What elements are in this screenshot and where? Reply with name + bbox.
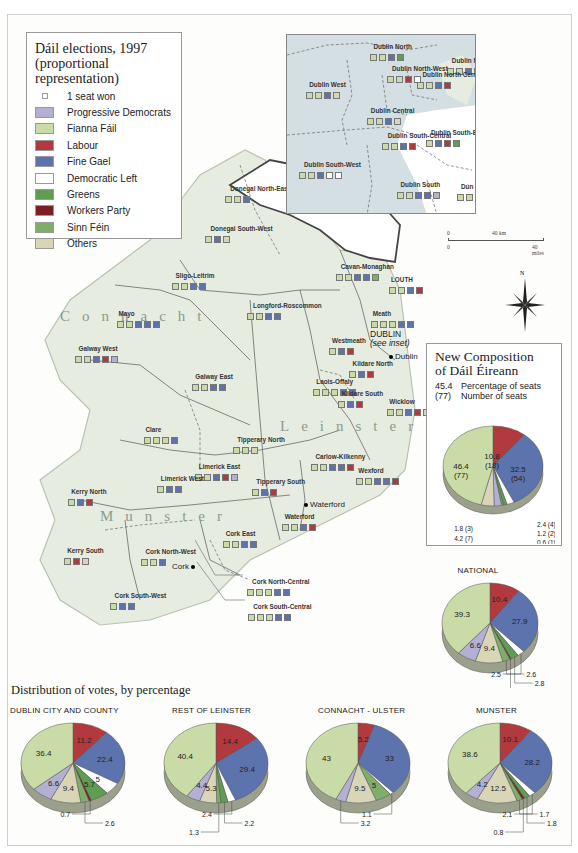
seat-row [306,92,340,99]
pie-value-label: 2.2 [244,820,254,827]
legend-item: Others [35,236,173,252]
constituency-label: Wexford [358,467,383,475]
seat-square-icon [77,499,84,506]
seat-square-icon [86,499,93,506]
seat-square-icon [389,287,396,294]
seat-row [225,196,250,203]
constituency-label: Kildare North [353,360,393,368]
pie-value-label: 0.8 [494,829,504,836]
seat-row [370,54,404,61]
seat-square-icon [396,76,403,83]
pie-value-label: 27.9 [512,617,528,626]
seat-square-icon [374,478,381,485]
seat-square-icon [433,192,440,199]
seat-square-icon [363,274,370,281]
seat-square-icon [335,172,342,179]
seat-square-icon [391,143,398,150]
legend-swatch-icon [35,238,54,249]
seat-row [387,76,421,83]
seat-square-icon [347,401,354,408]
national-pie-title: NATIONAL [448,566,508,575]
seat-square-icon [354,274,361,281]
seat-square-icon [345,274,352,281]
seat-square-icon [426,82,433,89]
constituency-label: LOUTH [391,276,413,284]
seat-square-icon [159,559,166,566]
seat-square-icon [225,196,232,203]
pie-value-label: 32.5 [510,465,526,474]
seat-square-icon [416,287,423,294]
constituency-label: Dublin North Central [423,71,476,79]
pie-value-label: 12.5 [490,784,506,793]
seat-square-icon [204,474,211,481]
seat-square-icon [347,348,354,355]
legend-swatch-icon [35,189,54,200]
seat-row [387,409,430,416]
seat-square-icon [405,409,412,416]
constituency-label: Dún Laoghaire [461,183,476,191]
seat-square-icon [172,283,179,290]
constituency-label: Sligo-Leitrim [175,272,214,280]
seat-square-icon [222,474,229,481]
pie-value-label: 2.5 [491,671,501,678]
province-label-munster: Munster [100,508,234,525]
pie-value-label: 2.1 [503,811,513,818]
seat-row [329,348,354,355]
seat-square-icon [315,92,322,99]
seat-square-icon [466,194,473,201]
seat-row [68,499,93,506]
seat-square-icon [166,486,173,493]
seat-square-icon [397,192,404,199]
pie-value-label: 14.4 [222,737,238,746]
seat-square-icon [417,82,424,89]
pie-value-label: 36.4 [36,749,52,758]
town-cork: Cork [172,562,195,571]
seat-square-icon [333,92,340,99]
pie-value-label: 2.6 [526,671,536,678]
seat-square-icon [256,589,263,596]
seat-square-icon [242,447,249,454]
seat-row [457,194,476,201]
seat-row [75,356,118,363]
constituency-label: Cork East [226,530,256,538]
seat-square-icon [389,321,396,328]
pie-value-label: 2.4 (4) [537,521,555,529]
seat-square-icon [435,82,442,89]
seat-square-icon [313,389,320,396]
seat-square-icon [409,143,416,150]
constituency-label: Cork North-West [145,548,196,556]
pie-value-label: 2.6 [105,820,115,827]
cork-leader-lines [195,540,275,610]
seat-square-icon [205,236,212,243]
dublin-note: DUBLIN (see inset) [370,330,410,348]
seat-square-icon [210,384,217,391]
constituency-label: Galway West [78,345,117,353]
pie-value-label: 38.6 [462,750,478,759]
seat-row [417,82,451,89]
pie-value-label: 1.3 [189,829,199,836]
scale-line [448,238,544,241]
seat-row [141,559,166,566]
seat-square-icon [338,348,345,355]
legend-item: Fianna Fáil [35,121,173,137]
pie-value-label: 5.2 [358,735,370,744]
seat-row [311,464,354,471]
legend-list: 1 seat wonProgressive DemocratsFianna Fá… [35,88,173,252]
seat-square-icon [223,541,230,548]
pie-value-label: 4.2 (7) [454,535,473,543]
distribution-title: Distribution of votes, by percentage [11,683,190,698]
seat-row [117,321,160,328]
legend-item: Fine Gael [35,154,173,170]
seat-square-icon [283,589,290,596]
constituency-label: Mayo [118,310,134,318]
pie-value-label: 10.1 [502,735,518,744]
seat-square-icon [119,603,126,610]
seat-square-icon [201,384,208,391]
seat-square-icon [171,437,178,444]
seat-square-icon [400,143,407,150]
seat-square-icon [213,474,220,481]
constituency-label: Kerry South [67,547,103,555]
pie-value-label: 46.4 [453,462,469,471]
seat-row [356,478,399,485]
constituency-label: Waterford [285,513,315,521]
